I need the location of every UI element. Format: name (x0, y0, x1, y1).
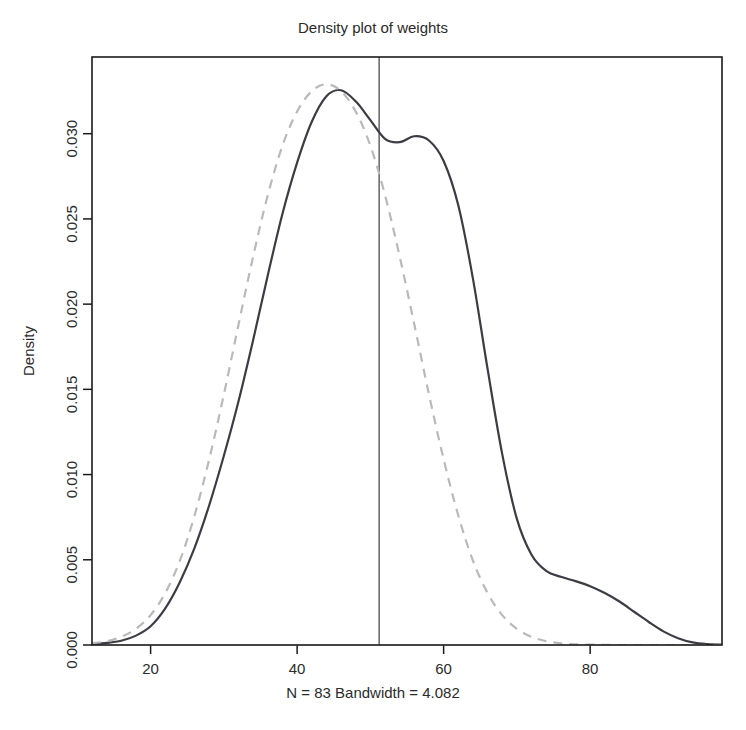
y-tick-label: 0.030 (63, 120, 80, 158)
figure-background (0, 0, 746, 730)
x-tick-label: 60 (435, 660, 452, 677)
x-axis-caption: N = 83 Bandwidth = 4.082 (286, 684, 459, 701)
y-tick-label: 0.020 (63, 290, 80, 328)
y-tick-label: 0.005 (63, 546, 80, 584)
x-tick-label: 40 (289, 660, 306, 677)
x-tick-label: 20 (142, 660, 159, 677)
y-tick-label: 0.010 (63, 461, 80, 499)
page-title: Density plot of weights (298, 19, 448, 36)
y-tick-label: 0.015 (63, 376, 80, 414)
y-tick-label: 0.025 (63, 205, 80, 243)
x-tick-label: 80 (582, 660, 599, 677)
density-plot-figure: Density plot of weights Density N = 83 B… (0, 0, 746, 730)
y-tick-label: 0.000 (63, 631, 80, 669)
y-axis-label: Density (20, 325, 37, 376)
